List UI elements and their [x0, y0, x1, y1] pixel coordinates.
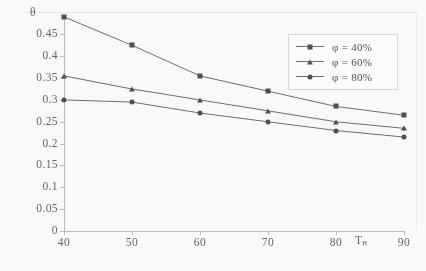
legend-marker-circle-icon — [308, 74, 313, 79]
legend-marker-sample — [295, 41, 325, 53]
data-point-marker — [198, 111, 203, 116]
data-point-marker — [130, 43, 135, 48]
data-point-marker — [402, 113, 407, 118]
data-point-marker — [334, 104, 339, 109]
data-point-marker — [334, 128, 339, 133]
chart-figure: θ Tн 0.450.40.350.30.250.20.150.10.050 4… — [0, 0, 426, 271]
plot-area: θ Tн 0.450.40.350.30.250.20.150.10.050 4… — [0, 0, 426, 271]
data-point-marker — [130, 100, 135, 105]
legend-marker-square-icon — [308, 44, 313, 49]
data-point-marker — [129, 87, 135, 92]
legend-item: φ = 80% — [295, 69, 391, 84]
legend-item: φ = 40% — [295, 39, 391, 54]
legend-label: φ = 60% — [325, 56, 372, 68]
data-point-marker — [62, 97, 67, 102]
data-point-marker — [402, 135, 407, 140]
data-point-marker — [62, 14, 67, 19]
data-point-marker — [61, 73, 67, 78]
data-point-marker — [198, 73, 203, 78]
data-point-marker — [333, 119, 339, 124]
legend: φ = 40%φ = 60%φ = 80% — [288, 34, 398, 90]
legend-item: φ = 60% — [295, 54, 391, 69]
data-point-marker — [266, 89, 271, 94]
data-point-marker — [197, 97, 203, 102]
legend-label: φ = 40% — [325, 41, 372, 53]
data-point-marker — [265, 108, 271, 113]
legend-marker-sample — [295, 56, 325, 68]
data-point-marker — [266, 119, 271, 124]
legend-marker-triangle-icon — [307, 59, 313, 64]
legend-label: φ = 80% — [325, 71, 372, 83]
data-point-marker — [401, 126, 407, 131]
legend-marker-sample — [295, 71, 325, 83]
